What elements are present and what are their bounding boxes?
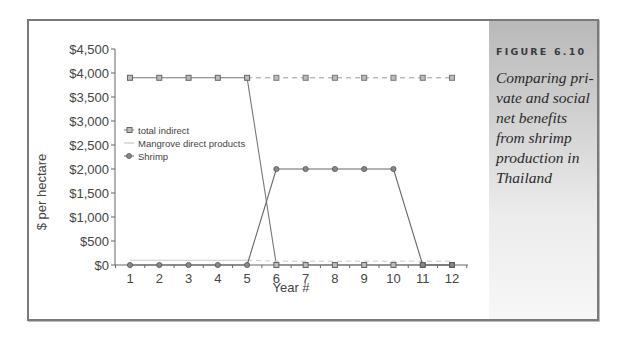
y-tick-label: $0: [95, 258, 109, 273]
x-tick-label: 2: [156, 271, 163, 286]
y-axis: $0$500$1,000$1,500$2,000$2,500$3,000$3,5…: [69, 42, 115, 273]
y-tick-label: $4,000: [69, 66, 109, 81]
y-tick-label: $4,500: [69, 42, 109, 57]
legend-entry: Mangrove direct products: [138, 138, 245, 149]
legend-entry: total indirect: [138, 125, 190, 136]
x-tick-label: 9: [361, 271, 368, 286]
x-tick-label: 3: [185, 271, 192, 286]
series-mangrove-direct-products: [130, 260, 452, 261]
x-tick-label: 5: [243, 271, 250, 286]
x-tick-label: 8: [331, 271, 338, 286]
y-tick-label: $1,500: [69, 186, 109, 201]
y-tick-label: $3,000: [69, 114, 109, 129]
y-tick-label: $2,000: [69, 162, 109, 177]
y-tick-label: $1,000: [69, 210, 109, 225]
y-axis-title: $ per hectare: [34, 154, 49, 231]
x-tick-label: 4: [214, 271, 221, 286]
series-total-indirect: [128, 75, 455, 267]
series-shrimp: [127, 166, 454, 267]
line-chart: $0$500$1,000$1,500$2,000$2,500$3,000$3,5…: [0, 0, 628, 342]
series-group: [127, 75, 454, 267]
legend: total indirectMangrove direct productsSh…: [124, 125, 245, 162]
y-tick-label: $500: [80, 234, 109, 249]
x-axis-title: Year #: [272, 280, 310, 295]
legend-entry: Shrimp: [138, 151, 168, 162]
x-tick-label: 12: [445, 271, 459, 286]
y-tick-label: $3,500: [69, 90, 109, 105]
x-tick-label: 11: [416, 271, 430, 286]
y-tick-label: $2,500: [69, 138, 109, 153]
x-tick-label: 1: [126, 271, 133, 286]
x-tick-label: 10: [386, 271, 400, 286]
